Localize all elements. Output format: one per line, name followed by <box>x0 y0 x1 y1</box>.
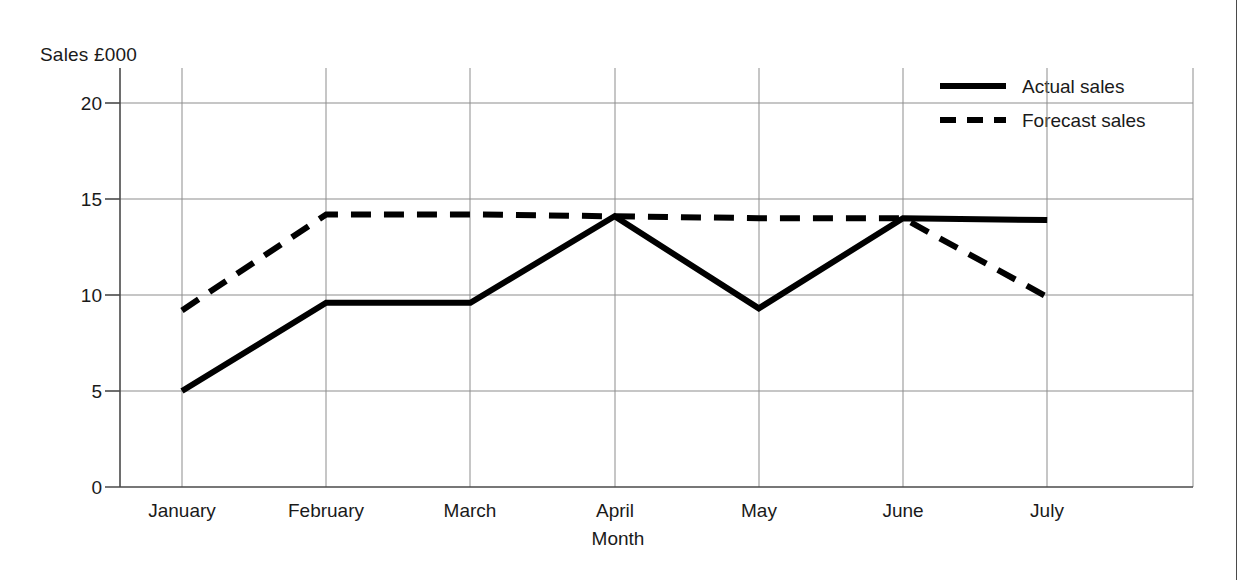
axis-lines <box>105 68 1193 487</box>
line-chart <box>0 0 1254 580</box>
chart-page: Sales £000 Month 20 15 10 5 0 January Fe… <box>0 0 1254 580</box>
vertical-gridlines <box>182 68 1193 487</box>
